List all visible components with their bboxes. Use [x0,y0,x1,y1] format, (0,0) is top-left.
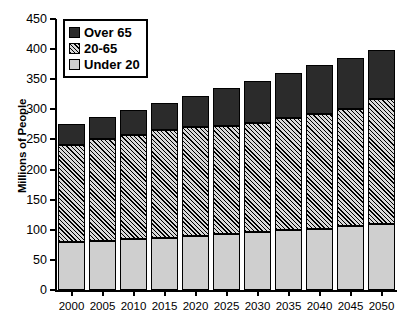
bar-2045 [337,58,365,290]
y-tick-label: 450 [26,12,47,26]
segment-20-65-2020 [182,127,210,235]
y-tick-label: 250 [26,132,47,146]
legend-label: Over 65 [84,26,132,39]
over65-swatch [69,27,80,38]
segment-over65-2000 [58,124,86,145]
x-tick-mark-2035 [288,290,290,296]
segment-under20-2045 [337,226,365,290]
x-tick-label-2020: 2020 [183,300,209,312]
segment-over65-2010 [120,110,148,135]
x-tick-label-2030: 2030 [245,300,271,312]
y-tick-label: 100 [26,223,47,237]
segment-under20-2030 [244,232,272,290]
bar-2005 [89,117,117,290]
segment-under20-2025 [213,234,241,290]
x-tick-mark-2040 [319,290,321,296]
y-tick-label: 350 [26,72,47,86]
series2065-swatch [69,43,80,54]
x-tick-mark-2000 [71,290,73,296]
x-tick-mark-2045 [350,290,352,296]
segment-over65-2035 [275,73,303,119]
segment-20-65-2010 [120,135,148,240]
y-tick-label: 400 [26,42,47,56]
bar-2035 [275,73,303,290]
legend-item-1: 20-65 [69,40,140,56]
x-tick-label-2010: 2010 [121,300,147,312]
bar-2040 [306,65,334,290]
y-tick-label: 50 [33,253,47,267]
segment-over65-2030 [244,81,272,123]
bar-2050 [368,50,396,290]
bar-2025 [213,88,241,290]
legend-label: 20-65 [84,42,117,55]
segment-under20-2020 [182,236,210,290]
y-tick-mark [50,108,56,110]
segment-under20-2040 [306,229,334,290]
x-tick-label-2040: 2040 [307,300,333,312]
y-tick-label: 0 [40,283,47,297]
segment-over65-2025 [213,88,241,125]
segment-20-65-2030 [244,123,272,232]
segment-under20-2035 [275,230,303,290]
segment-under20-2010 [120,239,148,290]
y-tick-label: 150 [26,193,47,207]
legend-label: Under 20 [84,58,140,71]
x-tick-mark-2020 [195,290,197,296]
y-tick-mark [50,229,56,231]
y-tick-label: 300 [26,102,47,116]
segment-20-65-2005 [89,139,117,240]
y-tick-mark [50,289,56,291]
x-tick-label-2050: 2050 [369,300,395,312]
segment-under20-2015 [151,238,179,290]
chart-legend: Over 6520-65Under 20 [63,19,148,78]
segment-over65-2015 [151,103,179,131]
x-tick-label-2025: 2025 [214,300,240,312]
segment-under20-2000 [58,242,86,290]
segment-under20-2050 [368,224,396,290]
segment-over65-2045 [337,58,365,109]
segment-over65-2020 [182,96,210,128]
segment-over65-2005 [89,117,117,139]
segment-20-65-2050 [368,99,396,224]
y-tick-label: 200 [26,163,47,177]
under20-swatch [69,59,80,70]
x-tick-label-2005: 2005 [90,300,116,312]
segment-over65-2040 [306,65,334,114]
y-tick-mark [50,169,56,171]
x-tick-mark-2030 [257,290,259,296]
x-tick-mark-2025 [226,290,228,296]
segment-20-65-2035 [275,118,303,230]
y-tick-mark [50,199,56,201]
x-tick-mark-2005 [102,290,104,296]
bar-2020 [182,95,210,290]
bar-2010 [120,110,148,290]
x-tick-mark-2050 [381,290,383,296]
bar-2030 [244,81,272,290]
segment-over65-2050 [368,50,396,98]
segment-20-65-2040 [306,114,334,228]
x-tick-label-2045: 2045 [338,300,364,312]
x-tick-mark-2010 [133,290,135,296]
bar-2015 [151,103,179,290]
stacked-bar-chart: Millions of People 050100150200250300350… [0,0,401,318]
segment-under20-2005 [89,241,117,290]
legend-item-0: Over 65 [69,24,140,40]
y-tick-mark [50,259,56,261]
segment-20-65-2025 [213,126,241,234]
x-tick-label-2035: 2035 [276,300,302,312]
segment-20-65-2045 [337,109,365,226]
x-tick-mark-2015 [164,290,166,296]
x-tick-label-2000: 2000 [59,300,85,312]
y-tick-mark [50,48,56,50]
bar-2000 [58,124,86,290]
segment-20-65-2000 [58,145,86,241]
x-tick-label-2015: 2015 [152,300,178,312]
segment-20-65-2015 [151,130,179,237]
y-tick-mark [50,138,56,140]
y-tick-mark [50,78,56,80]
y-tick-mark [50,18,56,20]
legend-item-2: Under 20 [69,56,140,72]
